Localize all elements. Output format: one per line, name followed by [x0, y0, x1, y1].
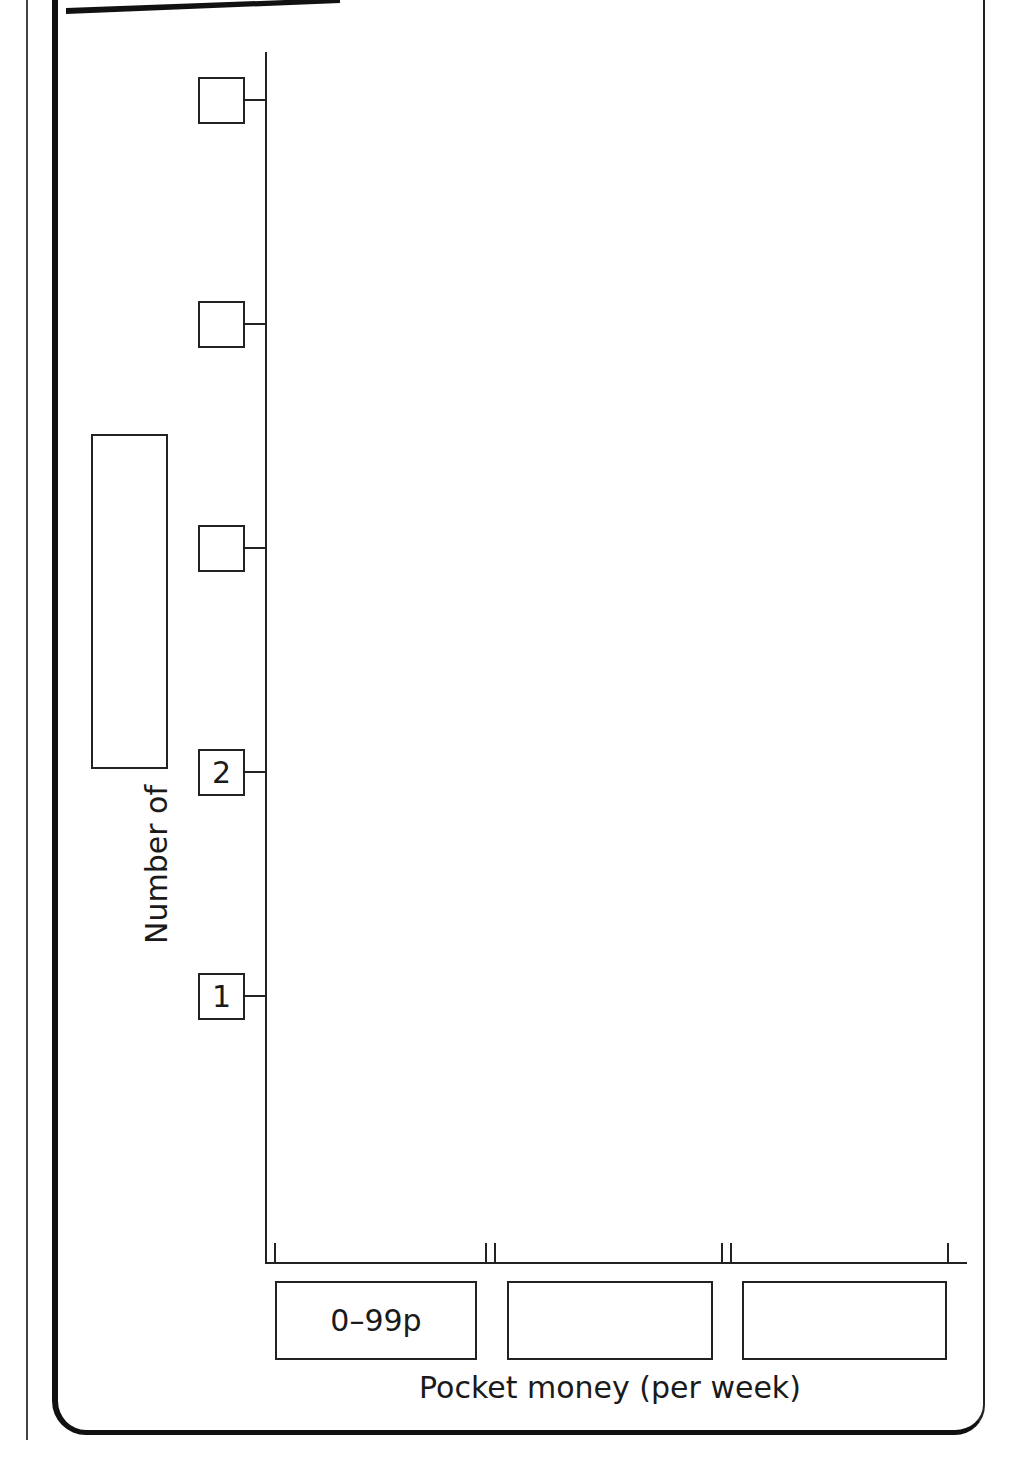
- y-tick-5: [245, 99, 266, 101]
- y-axis-label-answer-box[interactable]: [91, 434, 168, 769]
- y-tick-1: [245, 995, 266, 997]
- y-tick-3: [245, 547, 266, 549]
- x-tick: [274, 1243, 276, 1263]
- y-axis: [265, 52, 267, 1264]
- y-tick-box-5[interactable]: [198, 77, 245, 124]
- category-box-2[interactable]: [507, 1281, 713, 1360]
- worksheet-frame: [52, 0, 985, 1435]
- x-tick: [485, 1243, 487, 1263]
- x-axis-label: Pocket money (per week): [300, 1370, 920, 1405]
- x-tick: [494, 1243, 496, 1263]
- x-axis: [266, 1262, 967, 1264]
- y-tick-box-4[interactable]: [198, 301, 245, 348]
- category-box-1[interactable]: 0–99p: [275, 1281, 477, 1360]
- y-tick-box-3[interactable]: [198, 525, 245, 572]
- x-tick: [730, 1243, 732, 1263]
- y-tick-2: [245, 771, 266, 773]
- x-tick: [721, 1243, 723, 1263]
- y-tick-box-1[interactable]: 1: [198, 973, 245, 1020]
- y-axis-label: Number of: [139, 785, 174, 944]
- y-tick-box-2[interactable]: 2: [198, 749, 245, 796]
- y-tick-4: [245, 323, 266, 325]
- category-box-3[interactable]: [742, 1281, 947, 1360]
- page-margin-line: [26, 0, 28, 1440]
- x-tick: [947, 1243, 949, 1263]
